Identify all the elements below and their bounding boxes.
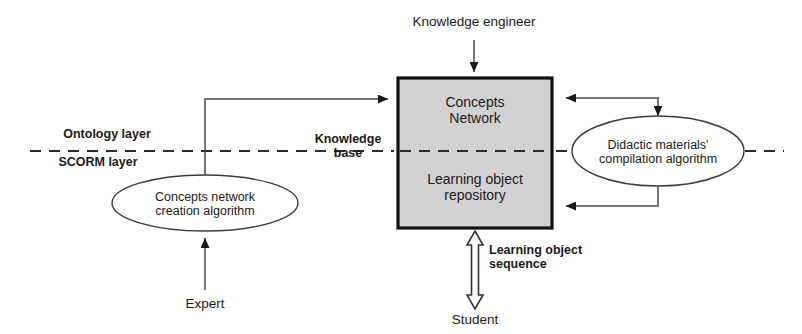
concepts-network-label: Concepts Network [445, 95, 504, 126]
knowledge-engineer-label: Knowledge engineer [412, 14, 535, 29]
ontology-layer-label: Ontology layer [63, 127, 151, 141]
knowledge-base-label: Knowledge base [315, 132, 382, 160]
student-label: Student [452, 312, 499, 327]
expert-label: Expert [185, 296, 224, 311]
concepts-network-creation-algorithm-label: Concepts network creation algorithm [155, 190, 255, 218]
didactic-materials-compilation-algorithm-label: Didactic materials' compilation algorith… [599, 138, 717, 166]
scorm-layer-label: SCORM layer [58, 155, 137, 169]
edge-didactic-algorithm-to-learning-object-repository [566, 187, 658, 206]
learning-object-sequence-arrow [467, 231, 483, 309]
learning-object-sequence-label: Learning object sequence [489, 243, 582, 271]
learning-object-repository-label: Learning object repository [427, 172, 523, 203]
architecture-diagram: Ontology layer SCORM layer Knowledge bas… [0, 0, 802, 334]
